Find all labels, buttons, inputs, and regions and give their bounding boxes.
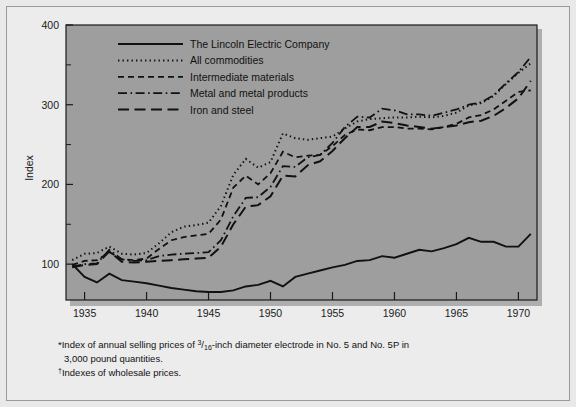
line-chart: 100200300400 193519401945195019551960196…	[0, 0, 576, 407]
footnotes: *Index of annual selling prices of 3/16-…	[58, 339, 409, 379]
x-tick-label: 1935	[73, 307, 97, 319]
footnote-1-line-2: 3,000 pound quantities.	[64, 353, 163, 364]
x-tick-label: 1945	[197, 307, 221, 319]
x-tick-label: 1950	[259, 307, 283, 319]
legend-label-0: The Lincoln Electric Company	[190, 38, 330, 50]
y-tick-label: 300	[41, 99, 59, 111]
y-tick-label: 400	[41, 19, 59, 31]
figure-container: 100200300400 193519401945195019551960196…	[0, 0, 576, 407]
footnote-1-line-1: *Index of annual selling prices of 3/16-…	[58, 339, 409, 351]
x-tick-label: 1970	[507, 307, 531, 319]
footnote-2-line-1: †Indexes of wholesale prices.	[58, 367, 181, 379]
legend-label-3: Metal and metal products	[190, 87, 308, 99]
y-tick-label: 100	[41, 258, 59, 270]
legend-label-2: Intermediate materials	[190, 71, 294, 83]
x-tick-label: 1960	[383, 307, 407, 319]
y-tick-label: 200	[41, 178, 59, 190]
legend-label-4: Iron and steel	[190, 104, 254, 116]
x-tick-label: 1965	[445, 307, 469, 319]
legend-label-1: All commodities	[190, 54, 264, 66]
x-tick-label: 1940	[135, 307, 159, 319]
y-axis-title: Index	[23, 154, 35, 180]
x-tick-label: 1955	[321, 307, 345, 319]
